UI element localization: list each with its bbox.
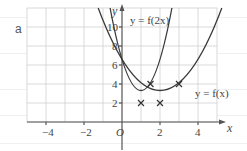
f2x-label: y = f(2x) — [130, 14, 170, 27]
fx-label: y = f(x) — [195, 87, 229, 100]
y-axis-label: y — [111, 4, 118, 18]
x-tick-label: −2 — [80, 126, 92, 138]
y-tick-label: 6 — [112, 59, 118, 71]
y-axis-arrow-icon — [120, 4, 125, 11]
y-tick-label: 2 — [112, 97, 118, 109]
x-tick-label: −4 — [42, 126, 54, 138]
x-axis-arrow-icon — [219, 120, 226, 125]
y-tick-label: 4 — [112, 78, 118, 90]
graph: −4 −2 O 2 4 x 2 4 6 8 10 y y = f(2x) y =… — [0, 0, 247, 151]
x-axis-label: x — [226, 121, 233, 135]
y-tick-label: 10 — [107, 21, 119, 33]
x-tick-label: 2 — [157, 126, 163, 138]
origin-label: O — [116, 126, 124, 138]
y-tick-label: 8 — [112, 40, 118, 52]
x-tick-label: 4 — [195, 126, 201, 138]
